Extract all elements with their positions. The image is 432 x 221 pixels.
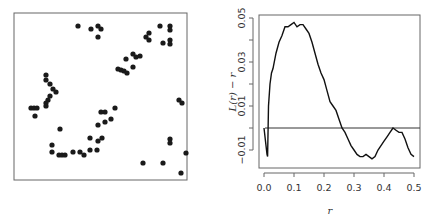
x-tick-label: 0.1 <box>286 182 301 193</box>
point-marker <box>43 77 48 82</box>
l-function-curve <box>264 22 414 158</box>
point-marker <box>146 37 151 42</box>
point-marker <box>108 116 113 121</box>
point-marker <box>98 26 103 31</box>
point-marker <box>179 100 184 105</box>
y-axis: −0.010.010.030.05 <box>236 7 253 164</box>
point-marker <box>32 113 37 118</box>
point-markers <box>28 23 188 175</box>
point-marker <box>95 34 100 39</box>
point-marker <box>157 23 162 28</box>
point-marker <box>95 122 100 127</box>
point-marker <box>167 140 172 145</box>
point-marker <box>123 56 128 61</box>
x-axis-title: r <box>328 205 334 216</box>
point-pattern-panel <box>14 13 189 180</box>
point-marker <box>81 152 86 157</box>
point-marker <box>53 89 58 94</box>
point-marker <box>75 23 80 28</box>
point-marker <box>160 40 165 45</box>
point-marker <box>112 105 117 110</box>
point-marker <box>49 142 54 147</box>
y-tick-label: −0.01 <box>236 135 247 164</box>
x-tick-label: 0.5 <box>406 182 421 193</box>
point-marker <box>124 70 129 75</box>
point-marker <box>183 150 188 155</box>
point-marker <box>94 147 99 152</box>
point-marker <box>34 105 39 110</box>
x-axis: 0.00.10.20.30.40.5 <box>256 173 421 193</box>
l-function-panel: −0.010.010.030.05 0.00.10.20.30.40.5 r L… <box>227 7 422 216</box>
y-tick-label: 0.03 <box>236 51 247 72</box>
point-marker <box>62 152 67 157</box>
point-marker <box>95 138 100 143</box>
point-marker <box>160 160 165 165</box>
point-marker <box>102 119 107 124</box>
x-tick-label: 0.4 <box>376 182 391 193</box>
point-marker <box>130 64 135 69</box>
x-tick-label: 0.0 <box>256 182 271 193</box>
point-marker <box>146 30 151 35</box>
point-marker <box>137 53 142 58</box>
point-marker <box>43 72 48 77</box>
point-marker <box>43 103 48 108</box>
y-tick-label: 0.05 <box>236 7 247 28</box>
point-marker <box>87 135 92 140</box>
point-marker <box>87 147 92 152</box>
point-marker <box>98 109 103 114</box>
x-tick-label: 0.2 <box>316 182 331 193</box>
point-marker <box>140 160 145 165</box>
point-pattern-frame <box>14 13 187 180</box>
figure: −0.010.010.030.05 0.00.10.20.30.40.5 r L… <box>0 0 432 221</box>
point-marker <box>167 41 172 46</box>
point-marker <box>178 170 183 175</box>
point-marker <box>57 126 62 131</box>
point-marker <box>88 26 93 31</box>
x-tick-label: 0.3 <box>346 182 361 193</box>
point-marker <box>167 27 172 32</box>
point-marker <box>47 81 52 86</box>
l-plot-frame <box>259 15 420 168</box>
point-marker <box>115 66 120 71</box>
point-marker <box>49 149 54 154</box>
point-marker <box>70 149 75 154</box>
y-axis-title: L(r) − r <box>227 71 238 112</box>
